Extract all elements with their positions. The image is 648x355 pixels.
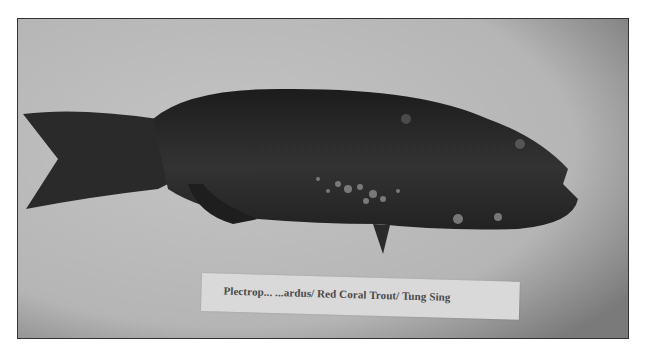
fish-photograph: Plectrop... ...ardus/ Red Coral Trout/ T… <box>17 18 629 339</box>
specimen-label-text: Plectrop... ...ardus/ Red Coral Trout/ T… <box>223 285 450 303</box>
